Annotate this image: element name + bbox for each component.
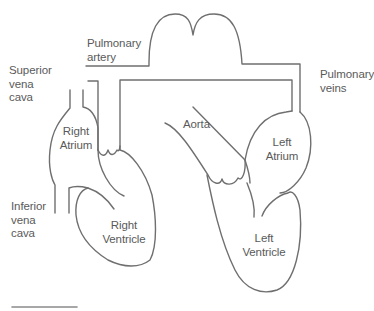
label-aorta: Aorta <box>183 118 210 132</box>
heart-diagram: Pulmonary artery Superior vena cava Pulm… <box>0 0 374 311</box>
label-pulmonary-veins: Pulmonary veins <box>320 68 374 95</box>
label-right-ventricle: Right Ventricle <box>100 219 148 246</box>
label-inferior-vena-cava: Inferior vena cava <box>11 200 46 241</box>
right-septum-line <box>76 150 156 266</box>
aorta-lower-line <box>165 123 245 184</box>
label-superior-vena-cava: Superior vena cava <box>9 64 52 105</box>
label-left-ventricle: Left Ventricle <box>240 232 288 259</box>
tricuspid-valve <box>98 146 120 155</box>
label-right-atrium: Right Atrium <box>54 125 98 152</box>
label-left-atrium: Left Atrium <box>260 136 304 163</box>
diagram-lines <box>0 0 374 311</box>
label-pulmonary-artery: Pulmonary artery <box>87 37 141 64</box>
